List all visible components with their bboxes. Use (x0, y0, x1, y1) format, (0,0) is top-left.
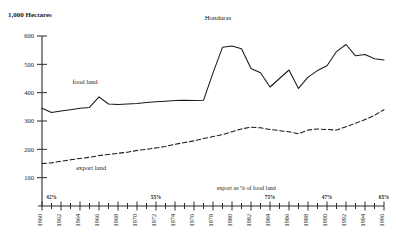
percent-mark-label: 75% (265, 194, 275, 200)
x-tick-label: 1982 (245, 214, 252, 226)
percent-mark-label: 42% (46, 194, 56, 200)
y-tick-label: 100 (24, 174, 34, 181)
percent-mark-label: 47% (322, 194, 332, 200)
unit-label: 1,000 Hectares (8, 11, 52, 19)
percent-annotation-marks: 42%55%75%47%65% (46, 194, 389, 200)
x-tick-label: 1988 (302, 214, 309, 226)
chart-annotations: export as % of food land (217, 185, 276, 191)
percent-mark-label: 65% (379, 194, 389, 200)
y-tick-label: 600 (24, 32, 34, 39)
y-axis-ticks: 100200300400500600 (24, 32, 47, 181)
x-tick-label: 1972 (150, 214, 157, 226)
x-tick-label: 1960 (36, 214, 43, 226)
y-tick-label: 300 (24, 117, 34, 124)
x-tick-label: 1976 (188, 214, 195, 226)
x-tick-label: 1980 (226, 214, 233, 226)
x-tick-label: 1996 (378, 214, 385, 226)
y-tick-label: 200 (24, 146, 34, 153)
x-tick-label: 1992 (340, 214, 347, 226)
x-tick-label: 1990 (321, 214, 328, 226)
y-axis: 100200300400500600 (24, 32, 47, 206)
x-axis-tick-labels: 1960196219641966196819701972197419761978… (36, 214, 385, 226)
honduras-line-chart: 1,000 Hectares Honduras 1002003004005006… (0, 0, 396, 244)
series-label-export-land: export land (76, 164, 107, 171)
chart-annotation: export as % of food land (217, 185, 276, 191)
x-axis: 1960196219641966196819701972197419761978… (36, 202, 385, 227)
x-tick-label: 1986 (283, 214, 290, 226)
x-tick-label: 1978 (207, 214, 214, 226)
series-label-food-land: food land (72, 78, 98, 85)
chart-container: 1,000 Hectares Honduras 1002003004005006… (0, 0, 396, 244)
x-tick-label: 1962 (55, 214, 62, 226)
x-tick-label: 1994 (359, 214, 366, 226)
x-tick-label: 1964 (74, 214, 81, 226)
chart-title: Honduras (205, 14, 232, 21)
x-tick-label: 1966 (93, 214, 100, 226)
y-tick-label: 400 (24, 89, 34, 96)
x-tick-label: 1974 (169, 214, 176, 226)
x-tick-label: 1968 (112, 214, 119, 226)
series-line-export-land (42, 110, 384, 164)
series-layer (42, 45, 384, 164)
y-tick-label: 500 (24, 61, 34, 68)
percent-mark-label: 55% (151, 194, 161, 200)
x-tick-label: 1984 (264, 214, 271, 226)
series-inline-labels: food landexport land (72, 78, 106, 171)
x-tick-label: 1970 (131, 214, 138, 226)
